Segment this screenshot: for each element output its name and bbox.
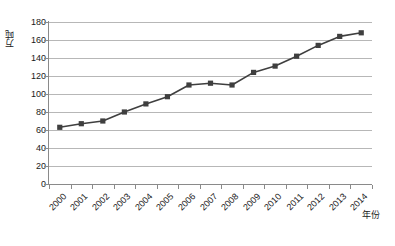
x-axis-tick-mark [286,185,287,189]
line-chart: 万吨 020406080100120140160180 200020012002… [0,0,395,246]
x-axis-tick-label: 2010 [262,192,284,214]
gridline [49,22,372,23]
x-axis-title: 年份 [362,208,380,221]
y-axis-tick-mark [44,58,48,59]
y-axis-tick-mark [44,148,48,149]
x-axis-tick-mark [114,185,115,189]
x-axis-tick-label: 2006 [175,192,197,214]
gridline [49,40,372,41]
x-axis-tick-label: 2004 [132,192,154,214]
x-axis-tick-label: 2008 [218,192,240,214]
gridline [49,112,372,113]
y-axis-tick-mark [44,94,48,95]
gridline [49,58,372,59]
x-axis-tick-label: 2009 [240,192,262,214]
x-axis-tick-mark [157,185,158,189]
x-axis-tick-label: 2011 [283,192,305,214]
x-axis-tick-label: 2005 [154,192,176,214]
x-axis-tick-label: 2002 [89,192,111,214]
x-axis-tick-mark [264,185,265,189]
gridline [49,166,372,167]
x-axis-tick-mark [350,185,351,189]
x-axis-tick-mark [243,185,244,189]
x-axis-tick-mark [178,185,179,189]
x-axis-tick-mark [135,185,136,189]
x-axis-tick-mark [372,185,373,189]
y-axis-tick-mark [44,130,48,131]
y-axis-tick-mark [44,76,48,77]
x-axis-tick-label: 2012 [305,192,327,214]
y-axis-tick-labels: 020406080100120140160180 [18,0,46,246]
plot-area [49,22,372,184]
x-axis-tick-mark [200,185,201,189]
x-axis-tick-label: 2000 [46,192,68,214]
x-axis-tick-mark [49,185,50,189]
x-axis-tick-mark [71,185,72,189]
x-axis-tick-label: 2003 [111,192,133,214]
y-axis-tick-mark [44,112,48,113]
y-axis-tick-mark [44,22,48,23]
gridline [49,130,372,131]
x-axis-tick-label: 2001 [68,192,90,214]
gridline [49,184,372,185]
gridline [49,94,372,95]
y-axis-tick-mark [44,40,48,41]
x-axis-tick-mark [307,185,308,189]
gridline [49,148,372,149]
x-axis-tick-label: 2007 [197,192,219,214]
x-axis-tick-mark [329,185,330,189]
gridline [49,76,372,77]
x-axis-tick-mark [221,185,222,189]
y-axis-tick-mark [44,184,48,185]
x-axis-tick-label: 2013 [326,192,348,214]
x-axis-tick-mark [92,185,93,189]
y-axis-tick-mark [44,166,48,167]
